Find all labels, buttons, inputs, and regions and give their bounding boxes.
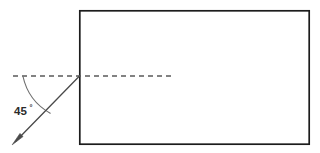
degree-symbol: ° (30, 103, 33, 112)
angle-label-value: 45 (14, 105, 28, 117)
geometry-diagram: 45 ° (0, 0, 320, 153)
rectangle-shape (80, 11, 309, 144)
diagram-canvas: 45 ° (0, 0, 320, 153)
arrowhead-icon (12, 133, 23, 144)
